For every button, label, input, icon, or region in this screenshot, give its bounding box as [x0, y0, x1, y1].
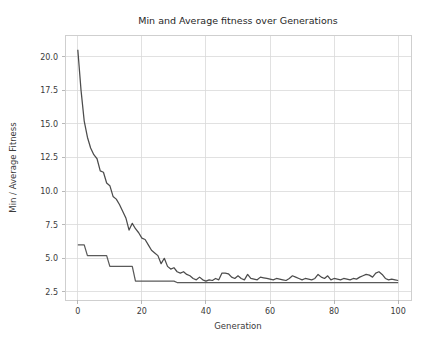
x-tick-label: 100 [391, 307, 406, 316]
x-tick-label: 60 [265, 307, 275, 316]
x-tick-label: 80 [329, 307, 339, 316]
y-tick-label: 15.0 [40, 120, 58, 129]
y-tick-label: 5.0 [45, 254, 58, 263]
y-tick-label: 7.5 [45, 221, 58, 230]
x-axis-tick-labels: 020406080100 [75, 307, 406, 316]
chart-plot: 2.55.07.510.012.515.017.520.0 0204060801… [0, 0, 429, 347]
y-tick-label: 10.0 [40, 187, 58, 196]
y-axis-label: Min / Average Fitness [8, 122, 18, 213]
y-tick-label: 2.5 [45, 288, 58, 297]
y-tick-label: 20.0 [40, 53, 58, 62]
y-tick-label: 12.5 [40, 153, 58, 162]
chart-title: Min and Average fitness over Generations [138, 15, 337, 26]
y-axis-tick-labels: 2.55.07.510.012.515.017.520.0 [40, 53, 58, 297]
x-tick-label: 40 [201, 307, 211, 316]
x-tick-label: 20 [137, 307, 147, 316]
y-tick-label: 17.5 [40, 86, 58, 95]
plot-background [65, 35, 411, 300]
x-axis-label: Generation [214, 321, 261, 331]
x-tick-label: 0 [75, 307, 80, 316]
figure-canvas: 2.55.07.510.012.515.017.520.0 0204060801… [0, 0, 429, 347]
